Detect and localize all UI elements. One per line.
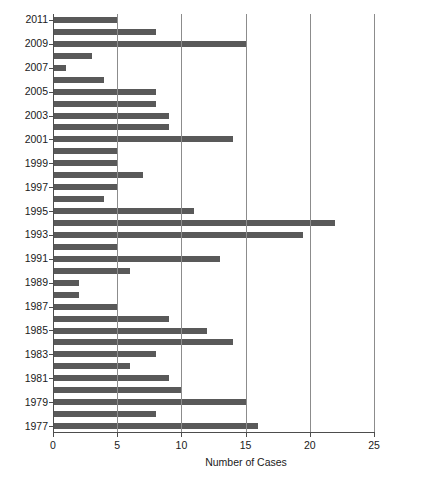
bar-1995 — [53, 208, 194, 214]
y-tick-label-1987: 1987 — [0, 301, 48, 312]
bar-2003 — [53, 113, 169, 119]
x-tick-mark-25 — [374, 432, 375, 437]
bar-row — [53, 217, 374, 229]
bar-row — [53, 265, 374, 277]
bar-1982 — [53, 363, 130, 369]
bar-2004 — [53, 101, 156, 107]
plot-area — [53, 14, 374, 432]
bar-row — [53, 325, 374, 337]
x-tick-label-10: 10 — [166, 439, 196, 451]
y-tick-mark-2003 — [49, 116, 53, 117]
y-tick-mark-1977 — [49, 426, 53, 427]
bar-row — [53, 384, 374, 396]
bar-2006 — [53, 77, 104, 83]
bar-row — [53, 133, 374, 145]
bar-row — [53, 38, 374, 50]
bar-1993 — [53, 232, 303, 238]
x-tick-label-5: 5 — [102, 439, 132, 451]
bar-chart: 1977197919811983198519871989199119931995… — [0, 0, 426, 486]
y-tick-label-1995: 1995 — [0, 206, 48, 217]
bar-2000 — [53, 148, 117, 154]
bar-row — [53, 229, 374, 241]
bar-row — [53, 62, 374, 74]
bar-2002 — [53, 124, 169, 130]
y-tick-mark-1979 — [49, 402, 53, 403]
x-axis-line — [53, 432, 374, 433]
bar-row — [53, 348, 374, 360]
bar-row — [53, 145, 374, 157]
bar-1992 — [53, 244, 117, 250]
bar-1997 — [53, 184, 117, 190]
bar-row — [53, 372, 374, 384]
y-tick-label-1985: 1985 — [0, 325, 48, 336]
bar-1977 — [53, 423, 258, 429]
bar-row — [53, 301, 374, 313]
bar-row — [53, 193, 374, 205]
bar-row — [53, 26, 374, 38]
bar-row — [53, 313, 374, 325]
y-tick-mark-2005 — [49, 92, 53, 93]
y-tick-label-1993: 1993 — [0, 229, 48, 240]
x-tick-label-25: 25 — [359, 439, 389, 451]
x-tick-mark-0 — [53, 432, 54, 437]
bar-1986 — [53, 316, 169, 322]
y-tick-label-1979: 1979 — [0, 397, 48, 408]
bar-1996 — [53, 196, 104, 202]
bar-1991 — [53, 256, 220, 262]
bar-2010 — [53, 29, 156, 35]
y-tick-mark-1995 — [49, 211, 53, 212]
bar-row — [53, 420, 374, 432]
bar-row — [53, 121, 374, 133]
x-tick-mark-15 — [246, 432, 247, 437]
gridline-15 — [246, 14, 247, 432]
bar-row — [53, 205, 374, 217]
y-tick-mark-2001 — [49, 139, 53, 140]
bar-1999 — [53, 160, 117, 166]
bar-row — [53, 169, 374, 181]
gridline-25 — [374, 14, 375, 432]
bar-row — [53, 98, 374, 110]
bar-1985 — [53, 328, 207, 334]
x-tick-mark-5 — [117, 432, 118, 437]
bar-1998 — [53, 172, 143, 178]
bar-1981 — [53, 375, 169, 381]
y-tick-label-2011: 2011 — [0, 14, 48, 25]
y-tick-label-2007: 2007 — [0, 62, 48, 73]
x-tick-mark-10 — [181, 432, 182, 437]
bar-row — [53, 253, 374, 265]
bar-row — [53, 360, 374, 372]
bar-2001 — [53, 136, 233, 142]
bar-1979 — [53, 399, 246, 405]
bar-series — [53, 14, 374, 432]
bar-row — [53, 110, 374, 122]
y-tick-mark-1981 — [49, 378, 53, 379]
gridline-20 — [310, 14, 311, 432]
bar-1983 — [53, 351, 156, 357]
y-tick-label-2009: 2009 — [0, 38, 48, 49]
x-axis-title: Number of Cases — [0, 456, 426, 468]
y-tick-mark-1985 — [49, 330, 53, 331]
bar-1984 — [53, 339, 233, 345]
bar-2007 — [53, 65, 66, 71]
y-tick-label-1981: 1981 — [0, 373, 48, 384]
y-tick-mark-1989 — [49, 283, 53, 284]
bar-row — [53, 336, 374, 348]
y-tick-label-2003: 2003 — [0, 110, 48, 121]
y-axis-line — [53, 14, 54, 432]
bar-row — [53, 14, 374, 26]
y-tick-mark-1987 — [49, 307, 53, 308]
bar-row — [53, 181, 374, 193]
bar-2011 — [53, 17, 117, 23]
bar-row — [53, 157, 374, 169]
y-tick-mark-1983 — [49, 354, 53, 355]
bar-row — [53, 396, 374, 408]
y-tick-mark-1999 — [49, 163, 53, 164]
y-tick-label-1977: 1977 — [0, 421, 48, 432]
y-tick-mark-2009 — [49, 44, 53, 45]
bar-row — [53, 289, 374, 301]
bar-1978 — [53, 411, 156, 417]
bar-1988 — [53, 292, 79, 298]
x-tick-mark-20 — [310, 432, 311, 437]
bar-2009 — [53, 41, 246, 47]
y-tick-mark-1991 — [49, 259, 53, 260]
